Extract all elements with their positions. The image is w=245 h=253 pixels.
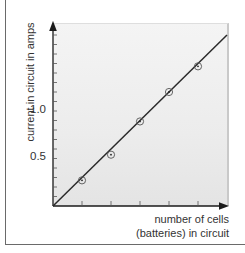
y-axis-label: current in circuit in amps [24,22,36,141]
data-point-dot [139,121,141,123]
data-point-dot [168,91,170,93]
data-point-dot [110,154,112,156]
data-point-dot [197,65,199,67]
x-axis-label: number of cells (batteries) in circuit [136,212,229,240]
data-points [78,63,201,184]
x-axis-label-line2: (batteries) in circuit [136,226,229,240]
x-ticks [82,201,198,206]
y-tick-label-1-0: 1.0 [22,103,46,115]
best-fit-line [53,35,227,206]
y-tick-label-0-5: 0.5 [22,150,46,162]
data-point-dot [81,179,83,181]
x-axis-label-line1: number of cells [136,212,229,226]
